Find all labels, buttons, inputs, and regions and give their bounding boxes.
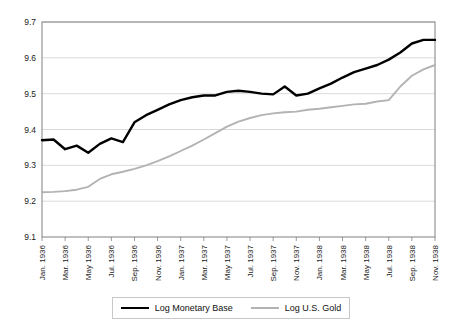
series-line-us-gold bbox=[42, 65, 435, 192]
y-axis-tick-label: 9.7 bbox=[24, 17, 36, 27]
series-line-monetary-base bbox=[42, 40, 435, 153]
x-axis-tick-label: Sep. 1938 bbox=[408, 244, 417, 281]
x-axis-tick-label: Nov. 1938 bbox=[431, 244, 440, 280]
x-axis-tick-label: Nov. 1937 bbox=[292, 244, 301, 280]
x-axis-tick-label: Mar. 1937 bbox=[200, 244, 209, 280]
x-axis-tick-label: May 1936 bbox=[84, 244, 93, 280]
legend-swatch-us-gold bbox=[251, 307, 279, 309]
x-axis-tick-label: Mar. 1936 bbox=[61, 244, 70, 280]
y-axis-tick-label: 9.3 bbox=[24, 160, 36, 170]
line-chart: 9.19.29.39.49.59.69.7Jan. 1936Mar. 1936M… bbox=[0, 0, 450, 330]
y-axis-tick-label: 9.1 bbox=[24, 232, 36, 242]
legend-label-us-gold: Log U.S. Gold bbox=[285, 303, 342, 313]
x-axis-tick-label: Jul. 1938 bbox=[385, 244, 394, 277]
x-axis-tick-label: Jan. 1936 bbox=[38, 244, 47, 280]
y-axis-tick-label: 9.5 bbox=[24, 89, 36, 99]
x-axis-tick-label: Sep. 1937 bbox=[269, 244, 278, 281]
x-axis-tick-label: Sep. 1936 bbox=[130, 244, 139, 281]
y-axis-tick-label: 9.4 bbox=[24, 125, 36, 135]
y-axis-tick-label: 9.2 bbox=[24, 196, 36, 206]
legend-label-monetary-base: Log Monetary Base bbox=[155, 303, 233, 313]
x-axis-tick-label: May 1938 bbox=[362, 244, 371, 280]
x-axis-tick-label: Jan. 1938 bbox=[315, 244, 324, 280]
x-axis-tick-label: Mar. 1938 bbox=[339, 244, 348, 280]
x-axis-tick-label: Jul. 1936 bbox=[107, 244, 116, 277]
x-axis-tick-label: Jan. 1937 bbox=[177, 244, 186, 280]
y-axis-tick-label: 9.6 bbox=[24, 53, 36, 63]
legend-entry-us-gold: Log U.S. Gold bbox=[251, 303, 342, 313]
x-axis-tick-label: Nov. 1936 bbox=[154, 244, 163, 280]
x-axis-tick-label: Jul. 1937 bbox=[246, 244, 255, 277]
chart-container: 9.19.29.39.49.59.69.7Jan. 1936Mar. 1936M… bbox=[0, 0, 450, 330]
legend-entry-monetary-base: Log Monetary Base bbox=[121, 303, 233, 313]
chart-legend: Log Monetary Base Log U.S. Gold bbox=[112, 297, 350, 319]
legend-swatch-monetary-base bbox=[121, 307, 149, 309]
x-axis-tick-label: May 1937 bbox=[223, 244, 232, 280]
